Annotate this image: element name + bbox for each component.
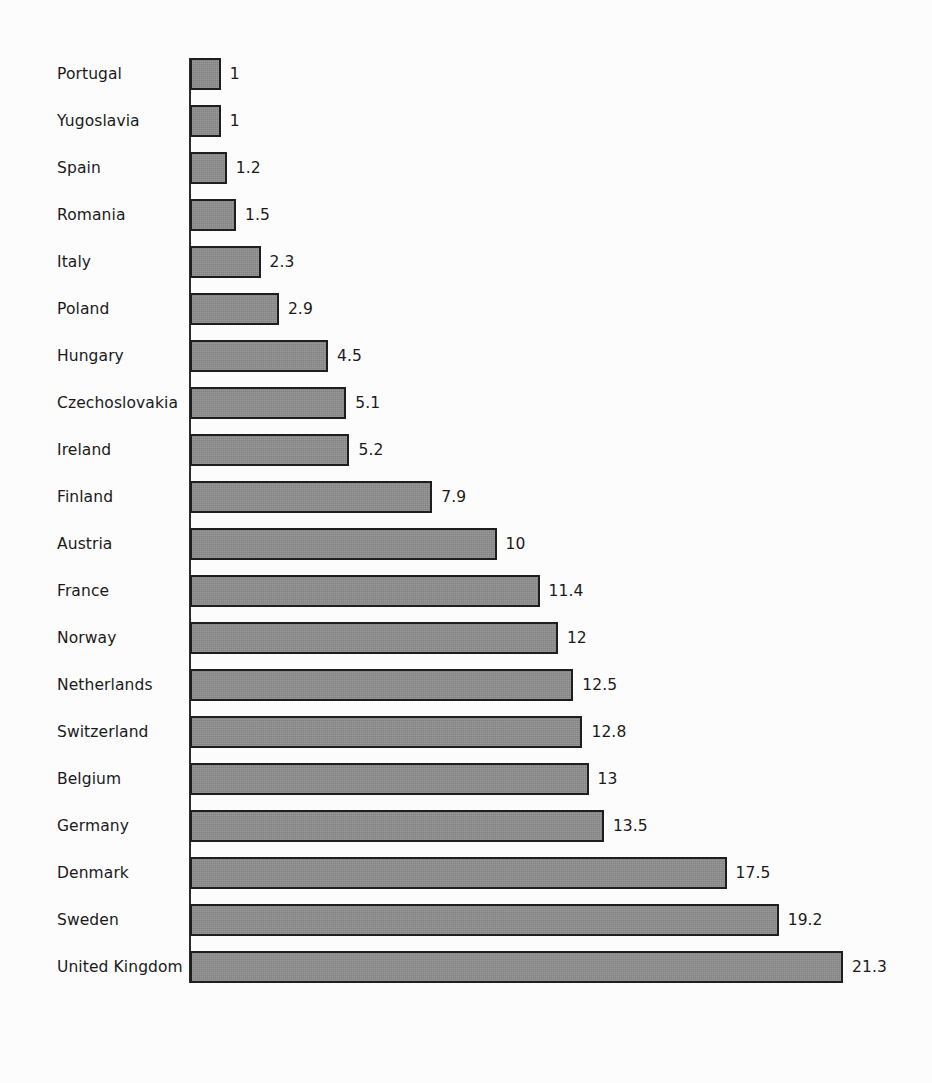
bar-value-label: 2.9 [288, 293, 313, 325]
bar-row: Yugoslavia1 [0, 105, 932, 137]
bar-rect [190, 716, 582, 748]
bar-rect [190, 763, 589, 795]
bar-category-label: Denmark [57, 857, 129, 889]
bar-category-label: Portugal [57, 58, 122, 90]
bar-rect [190, 481, 432, 513]
bar-value-label: 1.2 [236, 152, 261, 184]
bar-row: Finland7.9 [0, 481, 932, 513]
bar-value-label: 13 [598, 763, 618, 795]
bar-rect [190, 669, 573, 701]
bar-value-label: 1.5 [245, 199, 270, 231]
bar-rect [190, 622, 558, 654]
bar-row: Czechoslovakia5.1 [0, 387, 932, 419]
bar-row: Norway12 [0, 622, 932, 654]
plot-area: Portugal1Yugoslavia1Spain1.2Romania1.5It… [0, 0, 932, 1083]
bar-category-label: Italy [57, 246, 91, 278]
bar-value-label: 17.5 [736, 857, 771, 889]
bar-category-label: Belgium [57, 763, 121, 795]
bar-rect [190, 246, 261, 278]
bar-value-label: 1 [230, 105, 240, 137]
bar-rect [190, 434, 349, 466]
bar-row: Switzerland12.8 [0, 716, 932, 748]
category-axis-line [189, 58, 191, 983]
bar-value-label: 4.5 [337, 340, 362, 372]
bar-rect [190, 810, 604, 842]
bar-category-label: Yugoslavia [57, 105, 140, 137]
bar-category-label: Austria [57, 528, 112, 560]
bar-value-label: 12.5 [582, 669, 617, 701]
bar-value-label: 21.3 [852, 951, 887, 983]
bar-rect [190, 904, 779, 936]
bar-category-label: Spain [57, 152, 101, 184]
bar-row: Romania1.5 [0, 199, 932, 231]
bar-rect [190, 857, 727, 889]
bar-category-label: Finland [57, 481, 113, 513]
bar-rect [190, 199, 236, 231]
bar-category-label: Czechoslovakia [57, 387, 178, 419]
bar-row: Spain1.2 [0, 152, 932, 184]
bar-category-label: Norway [57, 622, 116, 654]
bar-value-label: 5.1 [355, 387, 380, 419]
bar-value-label: 19.2 [788, 904, 823, 936]
bar-row: Germany13.5 [0, 810, 932, 842]
bar-category-label: Germany [57, 810, 129, 842]
bar-category-label: Switzerland [57, 716, 149, 748]
bar-value-label: 2.3 [270, 246, 295, 278]
bar-row: France11.4 [0, 575, 932, 607]
bar-row: Netherlands12.5 [0, 669, 932, 701]
bar-rect [190, 528, 497, 560]
bar-category-label: Hungary [57, 340, 124, 372]
bar-value-label: 12.8 [591, 716, 626, 748]
bar-value-label: 12 [567, 622, 587, 654]
bar-rect [190, 58, 221, 90]
bar-category-label: Netherlands [57, 669, 153, 701]
bar-row: Denmark17.5 [0, 857, 932, 889]
bar-row: Sweden19.2 [0, 904, 932, 936]
bar-rect [190, 105, 221, 137]
bar-value-label: 11.4 [549, 575, 584, 607]
bar-category-label: Sweden [57, 904, 119, 936]
bar-category-label: Romania [57, 199, 125, 231]
bar-category-label: United Kingdom [57, 951, 183, 983]
bar-rect [190, 951, 843, 983]
bar-row: United Kingdom21.3 [0, 951, 932, 983]
bar-rect [190, 340, 328, 372]
bar-category-label: France [57, 575, 109, 607]
bar-rect [190, 293, 279, 325]
bar-value-label: 10 [506, 528, 526, 560]
bar-row: Poland2.9 [0, 293, 932, 325]
bar-row: Austria10 [0, 528, 932, 560]
bar-rect [190, 152, 227, 184]
bar-value-label: 7.9 [441, 481, 466, 513]
bar-category-label: Poland [57, 293, 109, 325]
bar-row: Italy2.3 [0, 246, 932, 278]
bar-row: Portugal1 [0, 58, 932, 90]
bar-value-label: 5.2 [358, 434, 383, 466]
bar-chart-figure: Portugal1Yugoslavia1Spain1.2Romania1.5It… [0, 0, 932, 1083]
bar-row: Belgium13 [0, 763, 932, 795]
bar-category-label: Ireland [57, 434, 111, 466]
bar-value-label: 13.5 [613, 810, 648, 842]
bar-rect [190, 575, 540, 607]
bar-row: Hungary4.5 [0, 340, 932, 372]
bar-rect [190, 387, 346, 419]
bar-value-label: 1 [230, 58, 240, 90]
bar-row: Ireland5.2 [0, 434, 932, 466]
